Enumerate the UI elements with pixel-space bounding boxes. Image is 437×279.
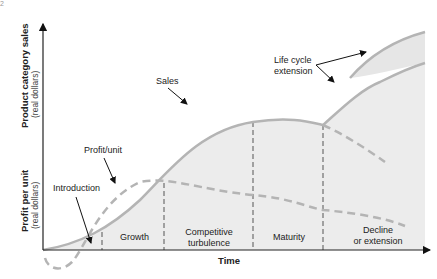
life-cycle-arrow-upper xyxy=(316,52,366,65)
life-cycle-arrow-lower xyxy=(316,65,334,82)
annotation-life-cycle-extension: Life cycle extension xyxy=(274,55,313,77)
stage-label-maturity: Maturity xyxy=(262,232,316,243)
stage-label-decline-or-extension: Decline or extension xyxy=(338,225,418,247)
annotation-profit-unit: Profit/unit xyxy=(84,145,122,156)
annotation-sales: Sales xyxy=(156,76,179,87)
introduction-arrow xyxy=(76,197,91,243)
stage-label-growth: Growth xyxy=(120,232,149,243)
y-axis-bottom-label: Profit per unit (real dollars) xyxy=(19,170,40,232)
x-axis-title: Time xyxy=(218,255,240,266)
profit-unit-arrow xyxy=(104,158,115,183)
sales-area-fill xyxy=(43,63,425,250)
sales-arrow xyxy=(168,88,187,104)
stage-label-competitive-turbulence: Competitive turbulence xyxy=(172,227,246,249)
stage-label-introduction: Introduction xyxy=(53,183,100,194)
y-axis-top-label: Product category sales (real dollars) xyxy=(19,23,40,128)
